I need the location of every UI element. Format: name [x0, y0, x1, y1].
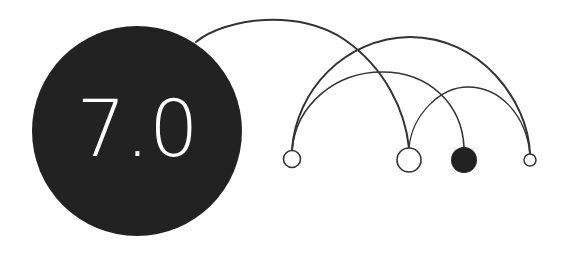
node-1-circle: [284, 151, 301, 168]
node-2-circle: [397, 148, 421, 172]
version-label: 7.0: [32, 83, 242, 175]
node-3-filled-circle: [451, 147, 477, 173]
node-4-circle: [524, 154, 536, 166]
